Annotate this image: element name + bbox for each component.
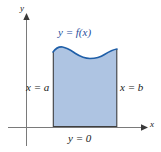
y-axis-arrowhead	[23, 13, 29, 20]
shaded-region	[53, 47, 117, 127]
x-axis-arrowhead	[141, 124, 148, 130]
left-boundary-label: x = a	[26, 82, 49, 93]
baseline-label: y = 0	[68, 133, 91, 144]
figure-container: y = f(x) x = a x = b y = 0 y x	[0, 0, 161, 152]
y-axis-label: y	[20, 4, 24, 13]
curve-label: y = f(x)	[58, 27, 91, 38]
right-boundary-label: x = b	[120, 82, 143, 93]
figure-graphic	[0, 0, 161, 152]
x-axis-label: x	[150, 120, 154, 129]
